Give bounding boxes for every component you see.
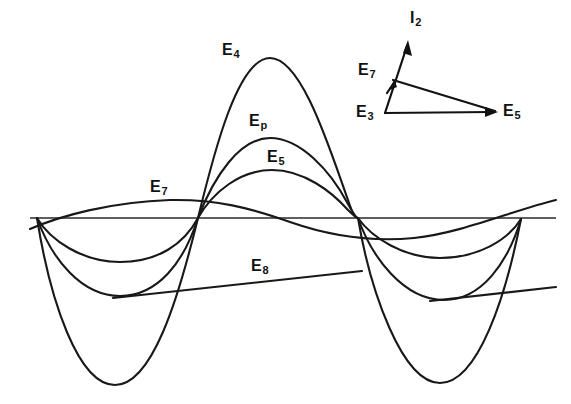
phasor-label-I2: I2 xyxy=(410,10,421,26)
phasor-label-E5: E5 xyxy=(503,103,520,119)
phasor-label-E7: E7 xyxy=(358,62,375,78)
curve-label-E8-sub: 8 xyxy=(262,264,268,276)
curve-E7 xyxy=(30,200,556,239)
waveform-group xyxy=(30,58,556,385)
curve-label-E7: E7 xyxy=(150,179,167,195)
curve-label-E5-base: E xyxy=(267,148,278,165)
vector-E5 xyxy=(385,112,491,113)
phasor-label-E7-base: E xyxy=(358,61,369,78)
diagram-canvas xyxy=(0,0,571,404)
phasor-label-E5-sub: 5 xyxy=(514,109,520,121)
curve-label-E4: E4 xyxy=(222,42,239,58)
curve-label-Ep-sub: p xyxy=(260,119,267,131)
curve-E4 xyxy=(37,58,521,385)
phasor-group xyxy=(385,40,498,117)
curve-label-E8: E8 xyxy=(251,258,268,274)
vector-I2 xyxy=(385,46,407,113)
phasor-label-E3-base: E xyxy=(356,103,367,120)
curve-label-E5: E5 xyxy=(267,149,284,165)
phasor-label-I2-sub: 2 xyxy=(415,16,421,28)
curve-label-E8-base: E xyxy=(251,257,262,274)
phasor-label-E7-sub: 7 xyxy=(369,68,375,80)
curve-E8-segment-left xyxy=(113,271,362,298)
phasor-label-I2-base: I xyxy=(410,9,415,26)
phasor-label-E5-base: E xyxy=(503,102,514,119)
figure-root: E4 Ep E5 E7 E8 I2 E7 E3 E5 xyxy=(0,0,571,404)
curve-label-Ep: Ep xyxy=(249,113,267,129)
phasor-label-E3: E3 xyxy=(356,104,373,120)
curve-label-E7-base: E xyxy=(150,178,161,195)
curve-label-E4-sub: 4 xyxy=(233,48,239,60)
vector-hypotenuse xyxy=(393,80,495,111)
phasor-label-E3-sub: 3 xyxy=(367,110,373,122)
curve-E5 xyxy=(37,170,521,262)
curve-label-Ep-base: E xyxy=(249,112,260,129)
curve-label-E4-base: E xyxy=(222,41,233,58)
curve-label-E5-sub: 5 xyxy=(278,155,284,167)
curve-label-E7-sub: 7 xyxy=(161,185,167,197)
curve-E8-segment-right xyxy=(430,287,556,301)
